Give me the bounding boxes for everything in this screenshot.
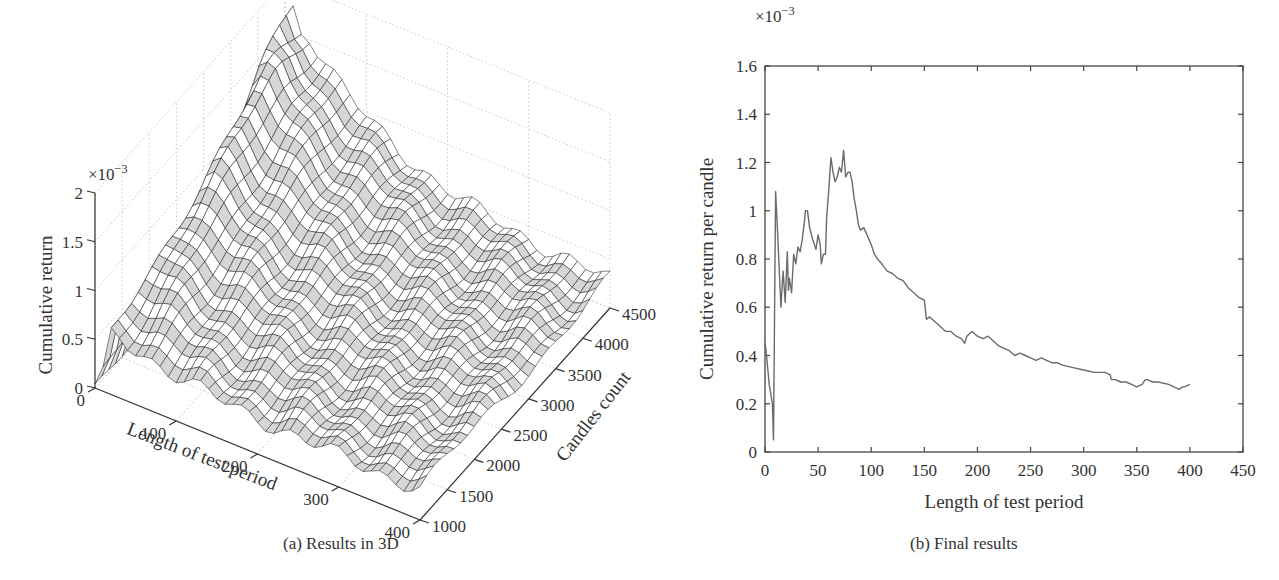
x-tick-label: 300 (303, 490, 329, 509)
z-axis-label: Cumulative return (35, 235, 56, 374)
y-tick-label: 0 (749, 443, 758, 462)
y-tick-label: 2500 (513, 426, 547, 445)
x-axis-label: Length of test period (124, 418, 280, 495)
plot-frame (765, 66, 1243, 452)
y-tick-label: 1 (749, 202, 758, 221)
z-tick-label: 0.5 (62, 330, 83, 349)
y-tick-label: 3500 (568, 366, 602, 385)
mesh-surface (95, 6, 610, 492)
z-multiplier: ×10−3 (88, 162, 128, 184)
y-tick-label: 4500 (622, 305, 656, 324)
y-tick-label: 4000 (595, 335, 629, 354)
y-tick-label: 0.8 (736, 250, 757, 269)
x-tick-label: 100 (858, 461, 884, 480)
panel-a-caption: (a) Results in 3D (283, 534, 399, 554)
y-tick-label: 2000 (486, 456, 520, 475)
panel-a-3d-surface: 00.511.520100200300400100015002000250030… (0, 0, 680, 540)
y-multiplier: ×10−3 (755, 4, 795, 26)
panel-b-caption: (b) Final results (910, 534, 1018, 554)
x-tick-label: 200 (965, 461, 991, 480)
y-tick-label: 1000 (432, 517, 466, 536)
line-plot: 05010015020025030035040045000.20.40.60.8… (680, 0, 1279, 540)
z-tick-label: 1 (75, 282, 84, 301)
x-axis-label: Length of test period (925, 491, 1084, 512)
y-axis-label: Cumulative return per candle (696, 158, 717, 380)
x-tick-label: 250 (1018, 461, 1044, 480)
z-tick-label: 2 (75, 184, 84, 203)
panel-b-line-plot: 05010015020025030035040045000.20.40.60.8… (680, 0, 1279, 540)
x-tick-label: 150 (912, 461, 938, 480)
x-tick-label: 400 (1177, 461, 1203, 480)
x-tick-label: 450 (1230, 461, 1256, 480)
x-tick-label: 350 (1124, 461, 1150, 480)
y-tick-label: 1500 (459, 487, 493, 506)
y-tick-label: 0.2 (736, 395, 757, 414)
x-tick-label: 300 (1071, 461, 1097, 480)
y-tick-label: 1.6 (736, 57, 757, 76)
x-tick-label: 0 (761, 461, 770, 480)
y-tick-label: 0.6 (736, 298, 757, 317)
y-tick-label: 3000 (541, 396, 575, 415)
series-line (765, 150, 1190, 440)
x-tick-label: 50 (810, 461, 827, 480)
surface-plot: 00.511.520100200300400100015002000250030… (0, 0, 680, 540)
y-tick-label: 1.4 (736, 105, 758, 124)
y-tick-label: 0.4 (736, 347, 758, 366)
y-tick-label: 1.2 (736, 154, 757, 173)
x-tick-label: 0 (77, 391, 86, 410)
z-tick-label: 1.5 (62, 233, 83, 252)
